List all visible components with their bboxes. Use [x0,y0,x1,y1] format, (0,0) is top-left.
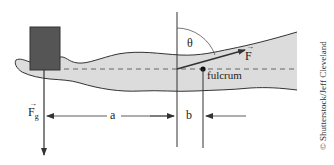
image-credit: © Shutterstock/Jeff Cleveland [318,41,328,150]
distance-b-label: b [186,109,192,121]
weight-force-label: Fg → [28,106,39,121]
angle-label: θ [187,37,193,49]
lever-diagram [0,0,334,165]
weight-block [30,27,60,70]
angle-arc [177,28,215,55]
fulcrum-label: fulcrum [207,70,242,81]
distance-a-label: a [110,109,115,121]
applied-force-label: F → [245,50,252,62]
